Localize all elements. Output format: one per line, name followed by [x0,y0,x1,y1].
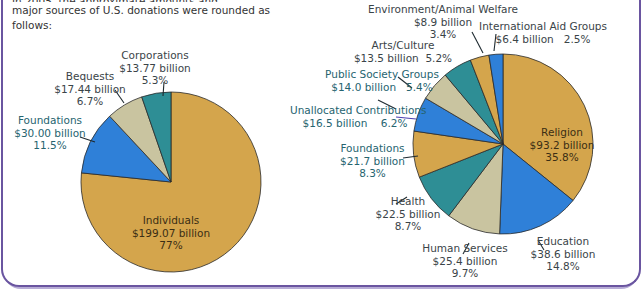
label-human-services: Human Services $25.4 billion 9.7% [420,242,510,280]
label-unallocated: Unallocated Contributions $16.5 billion … [290,104,420,129]
label-foundations-use: Foundations $21.7 billion 8.3% [335,142,410,180]
label-education: Education $38.6 billion 14.8% [523,235,603,273]
label-individuals: Individuals $199.07 billion 77% [121,214,221,252]
label-religion: Religion $93.2 billion 35.8% [527,126,597,164]
label-public-society: Public Society Groups $14.0 billion 5.4% [322,68,442,93]
label-health: Health $22.5 billion 8.7% [373,195,443,233]
label-arts-culture: Arts/Culture $13.5 billion 5.2% [348,39,458,64]
label-corporations: Corporations $13.77 billion 5.3% [110,49,200,87]
label-foundations-source: Foundations $30.00 billion 11.5% [10,114,90,152]
label-international-aid: International Aid Groups $6.4 billion 2.… [478,20,608,45]
